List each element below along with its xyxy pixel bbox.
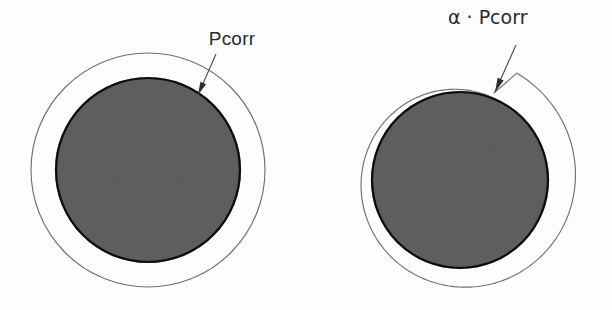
figure-container: Pcorr α · Pcorr — [0, 0, 612, 310]
right-core-disc — [372, 92, 548, 268]
left-core-disc — [56, 78, 240, 262]
corrosion-diagram-figure: Pcorr α · Pcorr — [0, 0, 612, 310]
left-label-pcorr: Pcorr — [209, 28, 256, 49]
right-label-alpha-pcorr: α · Pcorr — [448, 6, 528, 28]
